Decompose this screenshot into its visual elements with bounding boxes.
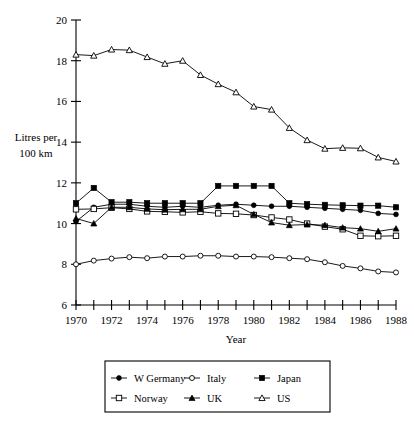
data-point-filled-square bbox=[73, 201, 78, 206]
data-point-filled-square bbox=[145, 201, 150, 206]
data-point-open-circle bbox=[109, 256, 114, 261]
data-point-open-square bbox=[73, 207, 78, 212]
x-axis-title-group: Year bbox=[226, 333, 247, 345]
legend-item-label: US bbox=[277, 393, 291, 404]
data-point-filled-square bbox=[233, 183, 238, 188]
y-tick-label: 6 bbox=[62, 299, 68, 311]
data-point-open-circle bbox=[91, 258, 96, 263]
data-point-open-square bbox=[358, 233, 363, 238]
x-tick-label: 1972 bbox=[101, 314, 123, 326]
data-point-filled-square bbox=[322, 202, 327, 207]
x-tick-label: 1984 bbox=[314, 314, 337, 326]
y-tick-label: 8 bbox=[62, 258, 68, 270]
data-point-open-square bbox=[216, 211, 221, 216]
data-point-filled-circle bbox=[376, 211, 381, 216]
data-point-filled-square bbox=[162, 201, 167, 206]
data-point-open-circle bbox=[145, 256, 150, 261]
data-point-open-circle bbox=[305, 257, 310, 262]
x-tick-label: 1988 bbox=[385, 314, 408, 326]
data-point-open-circle bbox=[269, 255, 274, 260]
data-point-filled-square bbox=[376, 203, 381, 208]
data-point-filled-circle bbox=[251, 203, 256, 208]
data-point-filled-square bbox=[340, 203, 345, 208]
data-point-filled-square bbox=[180, 201, 185, 206]
data-point-filled-square bbox=[198, 201, 203, 206]
data-point-filled-square bbox=[269, 183, 274, 188]
data-point-filled-square bbox=[259, 375, 264, 380]
y-axis-title-line1: Litres per bbox=[15, 131, 58, 143]
line-chart: 6810121416182019701972197419761978198019… bbox=[0, 0, 414, 423]
x-tick-label: 1976 bbox=[172, 314, 195, 326]
chart-container: 6810121416182019701972197419761978198019… bbox=[0, 0, 414, 423]
data-point-open-circle bbox=[180, 254, 185, 259]
data-point-open-circle bbox=[358, 266, 363, 271]
legend-item-label: UK bbox=[207, 393, 223, 404]
x-tick-label: 1974 bbox=[136, 314, 159, 326]
data-point-open-circle bbox=[216, 253, 221, 258]
data-point-open-circle bbox=[287, 256, 292, 261]
data-point-open-circle bbox=[190, 376, 195, 381]
data-point-open-circle bbox=[322, 260, 327, 265]
data-point-filled-square bbox=[91, 185, 96, 190]
data-point-filled-square bbox=[358, 203, 363, 208]
data-point-filled-square bbox=[251, 183, 256, 188]
data-point-filled-square bbox=[393, 205, 398, 210]
data-point-open-square bbox=[233, 211, 238, 216]
y-axis-title-line2: 100 km bbox=[19, 147, 53, 159]
data-point-open-square bbox=[287, 217, 292, 222]
x-tick-label: 1978 bbox=[207, 314, 230, 326]
data-point-open-circle bbox=[127, 255, 132, 260]
data-point-open-square bbox=[116, 395, 121, 400]
data-point-open-circle bbox=[394, 270, 399, 275]
x-tick-label: 1982 bbox=[278, 314, 300, 326]
data-point-open-circle bbox=[234, 254, 239, 259]
data-point-filled-square bbox=[216, 183, 221, 188]
x-axis-title: Year bbox=[226, 333, 247, 345]
data-point-open-square bbox=[376, 233, 381, 238]
x-tick-label: 1970 bbox=[65, 314, 88, 326]
data-point-open-circle bbox=[340, 263, 345, 268]
data-point-open-square bbox=[91, 206, 96, 211]
x-tick-label: 1980 bbox=[243, 314, 266, 326]
legend-item-label: Italy bbox=[207, 373, 227, 384]
data-point-open-circle bbox=[198, 253, 203, 258]
data-point-filled-circle bbox=[269, 204, 274, 209]
data-point-open-circle bbox=[74, 262, 79, 267]
data-point-open-square bbox=[393, 233, 398, 238]
y-tick-label: 16 bbox=[56, 95, 68, 107]
y-tick-label: 10 bbox=[56, 218, 68, 230]
data-point-open-circle bbox=[251, 254, 256, 259]
data-point-open-circle bbox=[376, 269, 381, 274]
y-tick-label: 12 bbox=[56, 177, 67, 189]
y-tick-label: 14 bbox=[56, 136, 68, 148]
data-point-filled-circle bbox=[358, 208, 363, 213]
data-point-filled-square bbox=[305, 202, 310, 207]
data-point-filled-square bbox=[287, 201, 292, 206]
legend-item-label: W Germany bbox=[134, 373, 186, 384]
x-tick-label: 1986 bbox=[349, 314, 372, 326]
legend-item-label: Norway bbox=[134, 393, 169, 404]
y-tick-label: 18 bbox=[56, 55, 68, 67]
y-tick-label: 20 bbox=[56, 14, 68, 26]
data-point-filled-circle bbox=[117, 376, 122, 381]
legend-box bbox=[105, 361, 330, 412]
legend-item-label: Japan bbox=[277, 373, 302, 384]
data-point-open-circle bbox=[162, 254, 167, 259]
legend: W GermanyItalyJapanNorwayUKUS bbox=[105, 361, 330, 412]
data-point-filled-circle bbox=[394, 212, 399, 217]
